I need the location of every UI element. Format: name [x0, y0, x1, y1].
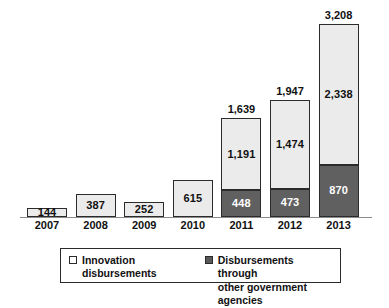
segment-value-label: 615	[183, 193, 202, 204]
segment-value-label: 2,338	[325, 89, 353, 100]
bar-2011[interactable]: 1,6391,191448	[221, 118, 261, 217]
x-tick-2012: 2012	[270, 219, 310, 232]
bar-2013[interactable]: 3,2082,338870	[319, 24, 359, 217]
x-tick-2007: 2007	[27, 219, 67, 232]
segment-value-label: 252	[135, 204, 154, 215]
bar-total-label: 1,947	[276, 86, 304, 97]
x-tick-2013: 2013	[319, 219, 359, 232]
segment-value-label: 1,191	[227, 149, 255, 160]
bar-segment-innovation[interactable]: 615	[173, 180, 213, 217]
segment-value-label: 1,474	[276, 139, 304, 150]
bar-segment-innovation[interactable]: 252	[124, 202, 164, 217]
bar-2007[interactable]: 144	[27, 208, 67, 217]
bar-total-label: 1,639	[228, 104, 256, 115]
segment-value-label: 870	[329, 185, 348, 196]
dark-square-icon	[205, 256, 213, 264]
x-tick-2009: 2009	[124, 219, 164, 232]
x-axis-line	[20, 217, 372, 218]
x-tick-2010: 2010	[173, 219, 213, 232]
bar-total-label: 3,208	[325, 10, 353, 21]
bar-2009[interactable]: 252	[124, 202, 164, 217]
legend-label: Disbursements through other government a…	[218, 254, 332, 308]
bar-segment-other-agencies[interactable]: 870	[319, 165, 359, 217]
bar-segment-innovation[interactable]: 2,338	[319, 24, 359, 165]
x-tick-2008: 2008	[76, 219, 116, 232]
legend-item-2[interactable]: Disbursements through other government a…	[205, 254, 332, 308]
legend-item-1[interactable]: Innovation disbursements	[69, 254, 191, 281]
bar-segment-other-agencies[interactable]: 448	[221, 190, 261, 217]
segment-value-label: 387	[86, 200, 105, 211]
bar-2012[interactable]: 1,9471,474473	[270, 100, 310, 217]
bar-segment-innovation[interactable]: 1,474	[270, 100, 310, 189]
x-tick-2011: 2011	[221, 219, 261, 232]
bar-segment-innovation[interactable]: 144	[27, 208, 67, 217]
light-square-icon	[69, 256, 77, 264]
segment-value-label: 448	[232, 198, 251, 209]
bar-2008[interactable]: 387	[76, 194, 116, 217]
chart-legend: Innovation disbursementsDisbursements th…	[60, 248, 341, 283]
legend-label: Innovation disbursements	[82, 254, 191, 281]
segment-value-label: 144	[38, 207, 57, 218]
bar-segment-innovation[interactable]: 1,191	[221, 118, 261, 190]
bar-segment-other-agencies[interactable]: 473	[270, 189, 310, 217]
bar-2010[interactable]: 615	[173, 180, 213, 217]
bar-segment-innovation[interactable]: 387	[76, 194, 116, 217]
segment-value-label: 473	[281, 197, 300, 208]
